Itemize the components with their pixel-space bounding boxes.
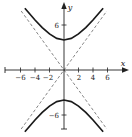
y-axis-arrow-icon [61, 2, 66, 9]
y-axis-label: y [67, 3, 73, 12]
y-tick-label: −6 [49, 112, 60, 120]
x-tick-label: −6 [15, 74, 26, 82]
y-tick-label: 6 [55, 22, 60, 30]
x-tick-label: 2 [77, 74, 81, 82]
hyperbola-plot: −6 −4 −2 2 4 6 6 −6 x y [0, 0, 132, 137]
x-axis [5, 67, 129, 73]
x-tick-label: 6 [105, 74, 110, 82]
x-tick-label: −4 [30, 74, 41, 82]
x-axis-label: x [121, 59, 126, 68]
y-axis [61, 2, 67, 129]
x-tick-label: 4 [91, 74, 96, 82]
x-axis-arrow-icon [122, 67, 129, 72]
x-tick-label: −2 [43, 74, 53, 82]
